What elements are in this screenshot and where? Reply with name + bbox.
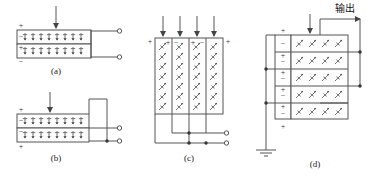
sign-b-3: − — [19, 127, 24, 136]
sign-d-top: + — [281, 26, 286, 35]
junction-dot-b — [105, 139, 108, 142]
sign-d-9: − — [281, 109, 286, 118]
layer-a-bottom — [17, 44, 91, 58]
sign-b-4: + — [19, 142, 24, 151]
junction-dot-d-2 — [358, 84, 361, 87]
panel-d: 输出 — [256, 2, 362, 169]
sign-c-4: + — [191, 38, 196, 47]
junction-dot-d-4 — [264, 101, 267, 104]
force-arrows-c — [163, 16, 214, 36]
panel-a: + − + − (a) — [17, 6, 122, 76]
sign-a-4: − — [19, 57, 24, 66]
panel-d-label: (d) — [310, 159, 321, 169]
panel-a-label: (a) — [51, 66, 61, 76]
terminal-c-bottom — [224, 141, 228, 145]
panel-b: + − − + (b) — [17, 92, 122, 163]
sign-d-bottom: + — [281, 122, 286, 131]
sign-d-1: − — [281, 39, 286, 48]
sign-c-1: + — [148, 37, 153, 46]
panel-b-label: (b) — [51, 153, 62, 163]
layer-a-top — [17, 30, 91, 44]
output-label: 输出 — [335, 2, 355, 14]
panel-c-label: (c) — [184, 153, 194, 163]
layer-b-bottom — [17, 128, 89, 142]
sign-c-6: + — [226, 37, 231, 46]
leads-c — [155, 114, 229, 145]
junction-dot-c-1 — [187, 131, 190, 134]
sign-a-3: + — [19, 43, 24, 52]
sign-c-3: − — [174, 38, 179, 47]
junction-dot-d-1 — [358, 50, 361, 53]
panel-c: + + − + − + (c) — [148, 16, 231, 163]
ground-rail-d — [256, 35, 276, 156]
terminal-a-top — [117, 29, 121, 33]
sign-c-5: − — [200, 38, 205, 47]
sign-c-2: + — [166, 38, 171, 47]
sign-d-7: − — [281, 91, 286, 100]
junction-dot-c-3 — [204, 141, 207, 144]
junction-dot-c-2 — [187, 141, 190, 144]
sign-b-1: + — [19, 105, 24, 114]
leads-b — [89, 99, 122, 143]
sign-d-3: − — [281, 57, 286, 66]
sign-a-2: − — [19, 32, 24, 41]
sign-d-5: − — [281, 74, 286, 83]
layer-b-top — [17, 114, 89, 128]
sign-b-2: − — [19, 116, 24, 125]
terminal-b-bottom — [117, 139, 121, 143]
junction-dot-d-3 — [264, 67, 267, 70]
leads-a — [91, 29, 122, 59]
terminal-c-top — [224, 131, 228, 135]
terminal-b-top — [117, 126, 121, 130]
sign-a-1: + — [19, 21, 24, 30]
piezoelectric-configurations-figure: + − + − (a) — [0, 0, 387, 177]
terminal-a-bottom — [117, 55, 121, 59]
